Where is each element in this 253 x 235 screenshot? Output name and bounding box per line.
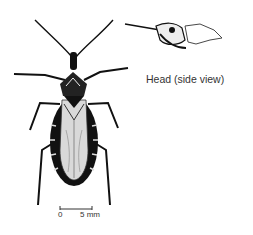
scale-end-label: 5 mm (80, 210, 100, 219)
illustration-figure: Head (side view) 0 5 mm (0, 0, 253, 235)
bug-illustration (0, 0, 253, 235)
head-side-view-label: Head (side view) (146, 73, 224, 85)
head-side-view-inset (125, 23, 222, 48)
scale-start-label: 0 (58, 210, 62, 219)
